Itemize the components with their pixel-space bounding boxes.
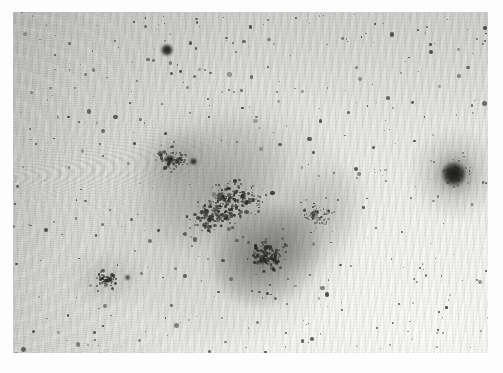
astronomical-image-plate: [0, 0, 503, 373]
film-grain-texture: [13, 12, 488, 353]
image-frame: [13, 12, 488, 353]
